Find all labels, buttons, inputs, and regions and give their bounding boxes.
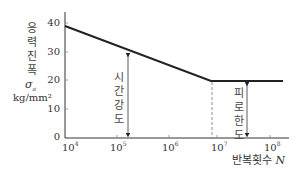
y-tick-40: 40 bbox=[40, 17, 60, 28]
fatigue-limit-label: 피로한도 bbox=[233, 87, 245, 143]
y-axis-label-char-1: 응 bbox=[26, 22, 38, 36]
y-tick-10: 10 bbox=[40, 103, 60, 114]
x-tick-10e8: 108 bbox=[264, 142, 281, 153]
y-axis-label-char-2: 력 bbox=[26, 36, 38, 50]
y-axis-label-char-3: 진 bbox=[26, 50, 38, 64]
y-axis-label-char-4: 폭 bbox=[26, 64, 38, 78]
y-axis-unit: kg/mm² bbox=[13, 92, 52, 103]
time-strength-label: 시간강도 bbox=[113, 71, 125, 127]
x-tick-10e6: 106 bbox=[162, 142, 179, 153]
x-tick-10e4: 104 bbox=[62, 142, 79, 153]
time-strength-text: 시간강도 bbox=[113, 71, 125, 127]
sn-curve-line bbox=[65, 26, 283, 81]
x-tick-10e5: 105 bbox=[110, 142, 127, 153]
fatigue-limit-text: 피로한도 bbox=[233, 87, 245, 143]
y-tick-20: 20 bbox=[40, 74, 60, 85]
y-tick-30: 30 bbox=[40, 46, 60, 57]
x-tick-10e7: 107 bbox=[211, 142, 228, 153]
x-axis-label: 반복횟수 N bbox=[232, 155, 285, 166]
y-tick-0: 0 bbox=[40, 131, 60, 142]
